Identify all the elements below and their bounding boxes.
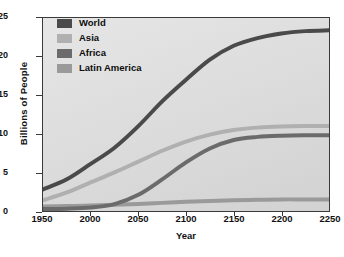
legend-label: Latin America (79, 63, 141, 73)
legend-item[interactable]: Asia (57, 31, 141, 45)
legend-item[interactable]: Latin America (57, 61, 141, 75)
y-tick-label: 10 (0, 129, 8, 138)
y-tick-label: 15 (0, 90, 8, 99)
legend-item[interactable]: World (57, 16, 141, 30)
legend-label: Africa (79, 48, 106, 58)
y-tick-label: 25 (0, 12, 8, 21)
x-tick-label: 1950 (22, 214, 62, 224)
x-tick-label: 2250 (310, 214, 344, 224)
x-tick-mark (90, 212, 91, 216)
legend-item[interactable]: Africa (57, 46, 141, 60)
population-projection-chart: 0510152025 Billions of People 1950200020… (0, 0, 344, 257)
legend-swatch-icon (57, 49, 72, 58)
y-tick-label: 0 (0, 207, 8, 216)
y-axis-title: Billions of People (18, 34, 29, 174)
legend-swatch-icon (57, 19, 72, 28)
y-tick-label: 20 (0, 51, 8, 60)
x-tick-mark (234, 212, 235, 216)
x-tick-mark (138, 212, 139, 216)
x-axis-title: Year (42, 230, 330, 241)
legend-swatch-icon (57, 64, 72, 73)
x-tick-mark (186, 212, 187, 216)
series-line-latin-america (43, 199, 329, 206)
legend: WorldAsiaAfricaLatin America (57, 16, 141, 76)
legend-label: Asia (79, 33, 99, 43)
legend-label: World (79, 18, 106, 28)
y-tick-label: 5 (0, 168, 8, 177)
legend-swatch-icon (57, 34, 72, 43)
x-tick-mark (282, 212, 283, 216)
